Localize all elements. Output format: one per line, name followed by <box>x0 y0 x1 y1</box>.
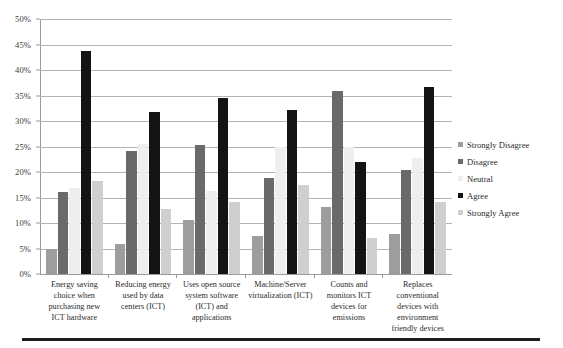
plot-area <box>40 19 452 274</box>
x-axis-category-label: Energy saving choice when purchasing new… <box>40 279 109 334</box>
bar <box>115 244 126 274</box>
bar <box>275 147 286 275</box>
bar <box>58 192 69 274</box>
y-axis-tick-label: 5% <box>19 244 31 254</box>
bar <box>69 188 80 274</box>
y-axis-tick-label: 10% <box>15 218 31 228</box>
bar <box>218 98 229 274</box>
legend-label: Neutral <box>467 174 493 184</box>
bar-group <box>109 19 178 274</box>
bar <box>401 170 412 274</box>
bar <box>252 236 263 274</box>
bar <box>46 249 57 275</box>
legend-label: Agree <box>467 191 488 201</box>
y-axis-tick-label: 20% <box>15 167 31 177</box>
bar <box>367 238 378 274</box>
bar <box>183 220 194 274</box>
legend-item[interactable]: Agree <box>458 187 563 204</box>
bar <box>332 91 343 274</box>
bar <box>92 181 103 274</box>
bar-group <box>177 19 246 274</box>
bottom-divider-rule <box>22 338 540 341</box>
bar <box>126 151 137 274</box>
bar <box>195 145 206 274</box>
bar <box>355 162 366 274</box>
bar <box>229 202 240 274</box>
x-axis-category-label: Counts and monitors ICT devices for emis… <box>315 279 384 334</box>
bar <box>81 51 92 274</box>
legend-item[interactable]: Disagree <box>458 153 563 170</box>
bar <box>412 158 423 274</box>
bar <box>389 234 400 274</box>
x-axis-category-label: Replaces conventional devices with envir… <box>383 279 452 334</box>
legend-item[interactable]: Strongly Agree <box>458 204 563 221</box>
x-axis-category-label: Uses open source system software (ICT) a… <box>177 279 246 334</box>
x-axis-group-separator <box>176 274 177 278</box>
legend-item[interactable]: Strongly Disagree <box>458 136 563 153</box>
legend-swatch-icon <box>458 210 463 215</box>
y-axis-tick-label: 15% <box>15 193 31 203</box>
x-axis-category-label: Reducing energy used by data centers (IC… <box>109 279 178 334</box>
bar <box>161 209 172 274</box>
x-axis-category-labels: Energy saving choice when purchasing new… <box>40 279 452 334</box>
bar <box>298 185 309 274</box>
bar <box>206 191 217 274</box>
y-axis-tick-label: 50% <box>15 14 31 24</box>
bar <box>435 202 446 274</box>
x-axis-group-separator <box>314 274 315 278</box>
bar <box>287 110 298 274</box>
y-axis-tick-label: 45% <box>15 40 31 50</box>
x-axis-group-separator <box>108 274 109 278</box>
bar <box>424 87 435 274</box>
x-axis-category-label: Machine/Server virtualization (ICT) <box>246 279 315 334</box>
y-axis-tick-label: 0% <box>19 269 31 279</box>
y-axis-tick-label: 35% <box>15 91 31 101</box>
bar <box>138 144 149 274</box>
legend-swatch-icon <box>458 159 463 164</box>
legend-swatch-icon <box>458 142 463 147</box>
bar <box>321 207 332 274</box>
bar <box>264 178 275 274</box>
y-axis-tick-label: 25% <box>15 142 31 152</box>
y-axis-tick-labels: 50%45%40%35%30%25%20%15%10%5%0% <box>0 19 36 274</box>
x-axis-group-separator <box>245 274 246 278</box>
legend-swatch-icon <box>458 193 463 198</box>
bar-group <box>246 19 315 274</box>
legend-item[interactable]: Neutral <box>458 170 563 187</box>
legend-swatch-icon <box>458 176 463 181</box>
bar <box>149 112 160 274</box>
bar-chart-figure: 50%45%40%35%30%25%20%15%10%5%0% Energy s… <box>0 0 563 348</box>
y-axis-tick-label: 30% <box>15 116 31 126</box>
legend-label: Strongly Disagree <box>467 140 529 150</box>
y-axis-tick-label: 40% <box>15 65 31 75</box>
legend-label: Disagree <box>467 157 498 167</box>
bar-group <box>315 19 384 274</box>
legend-label: Strongly Agree <box>467 208 519 218</box>
chart-legend: Strongly DisagreeDisagreeNeutralAgreeStr… <box>458 136 563 221</box>
x-axis-group-separator <box>382 274 383 278</box>
bar <box>344 147 355 275</box>
bar-groups <box>40 19 452 274</box>
bar-group <box>383 19 452 274</box>
bar-group <box>40 19 109 274</box>
